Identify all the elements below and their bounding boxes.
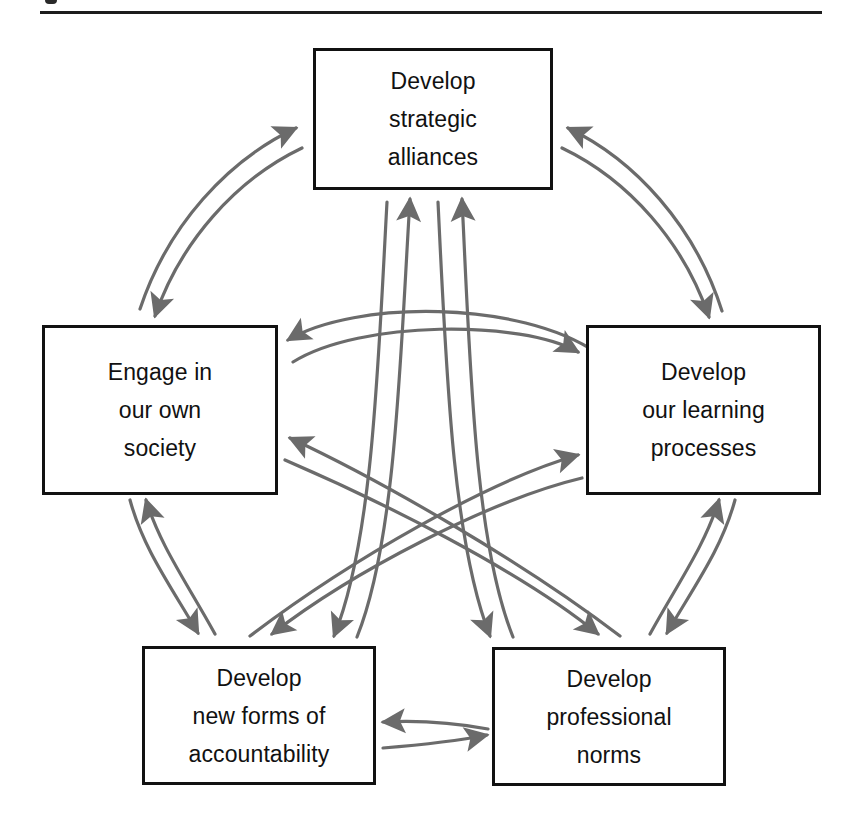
arrow-bottomright-to-right <box>650 500 719 634</box>
arrow-bottomleft-to-bottomright <box>383 735 487 748</box>
node-develop-strategic-alliances[interactable]: Develop strategic alliances <box>313 48 553 190</box>
arrow-right-to-bottomleft <box>272 478 582 634</box>
arrow-left-to-bottomleft <box>130 500 198 633</box>
node-develop-new-forms-of-accountability[interactable]: Develop new forms of accountability <box>142 646 376 785</box>
node-label: Develop strategic alliances <box>388 62 478 176</box>
arrow-right-to-bottomright <box>667 500 735 633</box>
arrow-bottomleft-to-left <box>146 500 215 634</box>
arrow-bottomright-to-bottomleft <box>383 721 488 729</box>
node-develop-our-learning-processes[interactable]: Develop our learning processes <box>586 325 821 495</box>
node-develop-professional-norms[interactable]: Develop professional norms <box>492 647 726 786</box>
diagram-page: Develop strategic alliances Engage in ou… <box>0 0 862 826</box>
node-engage-in-our-own-society[interactable]: Engage in our own society <box>42 325 278 495</box>
node-label: Develop our learning processes <box>642 353 765 467</box>
arrow-right-to-top <box>568 128 722 311</box>
node-label: Develop new forms of accountability <box>189 659 330 773</box>
arrow-left-to-top <box>140 128 296 309</box>
arrow-left-to-right <box>293 329 578 362</box>
node-label: Develop professional norms <box>546 660 671 774</box>
node-label: Engage in our own society <box>108 353 213 467</box>
